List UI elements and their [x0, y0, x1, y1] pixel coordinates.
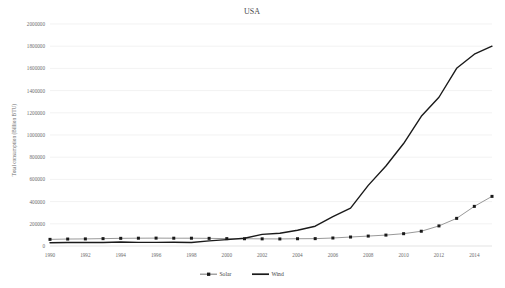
data-point-marker	[491, 195, 494, 198]
data-point-marker	[331, 237, 334, 240]
data-point-marker	[367, 235, 370, 238]
data-point-marker	[420, 230, 423, 233]
legend-label: Solar	[220, 271, 232, 277]
x-axis-tick-label: 2006	[328, 252, 339, 258]
series-wind	[50, 46, 492, 243]
data-point-marker	[437, 224, 440, 227]
x-axis-tick-label: 1996	[151, 252, 162, 258]
y-axis-tick-label: 1800000	[27, 43, 46, 49]
series-line-wind	[50, 46, 492, 243]
chart-legend: SolarWind	[200, 271, 284, 277]
data-series	[49, 46, 494, 243]
y-axis-tick-label: 200000	[29, 221, 45, 227]
data-point-marker	[172, 237, 175, 240]
data-point-marker	[208, 237, 211, 240]
x-axis-tick-label: 1992	[80, 252, 91, 258]
line-chart: USA Total consumption (Billion BTU) 0200…	[0, 0, 505, 288]
y-axis-tick-label: 1000000	[27, 132, 46, 138]
y-axis-tick-label: 400000	[29, 199, 45, 205]
data-point-marker	[402, 232, 405, 235]
x-axis-tick-label: 1990	[45, 252, 56, 258]
chart-title: USA	[244, 7, 260, 16]
x-axis-tick-label: 2000	[222, 252, 233, 258]
y-axis-title: Total consumption (Billion BTU)	[11, 104, 18, 176]
x-axis-tick-label: 2014	[469, 252, 480, 258]
y-axis-tick-label: 1600000	[27, 65, 46, 71]
gridlines	[50, 24, 492, 246]
y-axis-tick-label: 0	[42, 243, 45, 249]
legend-item-wind[interactable]: Wind	[252, 271, 284, 277]
y-axis-tick-labels: 0200000400000600000800000100000012000001…	[27, 21, 46, 249]
x-axis-tick-label: 2008	[363, 252, 374, 258]
x-axis-tick-label: 2010	[398, 252, 409, 258]
data-point-marker	[84, 237, 87, 240]
data-point-marker	[261, 237, 264, 240]
data-point-marker	[455, 217, 458, 220]
legend-marker-swatch	[207, 273, 210, 276]
data-point-marker	[278, 237, 281, 240]
y-axis-tick-label: 2000000	[27, 21, 46, 27]
data-point-marker	[155, 237, 158, 240]
data-point-marker	[296, 237, 299, 240]
data-point-marker	[314, 237, 317, 240]
data-point-marker	[384, 234, 387, 237]
x-axis-tick-label: 2002	[257, 252, 268, 258]
x-axis-tick-label: 2004	[292, 252, 303, 258]
data-point-marker	[137, 237, 140, 240]
y-axis-tick-label: 800000	[29, 154, 45, 160]
data-point-marker	[49, 238, 52, 241]
x-axis-tick-labels: 1990199219941996199820002002200420062008…	[45, 252, 480, 258]
data-point-marker	[66, 238, 69, 241]
series-line-solar	[50, 196, 492, 239]
legend-item-solar[interactable]: Solar	[200, 271, 231, 277]
x-axis-tick-label: 1998	[186, 252, 197, 258]
y-axis-tick-label: 1400000	[27, 88, 46, 94]
data-point-marker	[473, 205, 476, 208]
data-point-marker	[102, 237, 105, 240]
y-axis-tick-label: 1200000	[27, 110, 46, 116]
data-point-marker	[190, 237, 193, 240]
data-point-marker	[349, 236, 352, 239]
legend-label: Wind	[272, 271, 284, 277]
x-axis-tick-label: 1994	[116, 252, 127, 258]
chart-container: USA Total consumption (Billion BTU) 0200…	[0, 0, 505, 288]
data-point-marker	[119, 237, 122, 240]
y-axis-tick-label: 600000	[29, 176, 45, 182]
x-axis-tick-label: 2012	[434, 252, 445, 258]
